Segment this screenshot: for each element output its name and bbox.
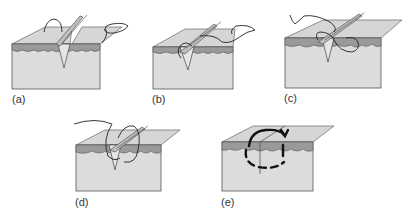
skin-block-side xyxy=(153,47,233,89)
dermis-layer-right xyxy=(66,44,100,52)
dermis-layer xyxy=(222,142,313,151)
panel-c-illustration xyxy=(285,13,402,88)
panel-b-illustration xyxy=(153,22,255,89)
dermis-layer-left xyxy=(12,44,62,52)
suture-diagram xyxy=(0,0,420,222)
panel-label-b: (b) xyxy=(152,94,165,105)
panel-label-a: (a) xyxy=(12,94,25,105)
panel-label-d: (d) xyxy=(75,197,88,208)
panel-label-e: (e) xyxy=(221,197,234,208)
panel-label-c: (c) xyxy=(284,93,297,104)
panel-e-illustration xyxy=(222,126,334,191)
skin-top-right-flap xyxy=(72,27,122,44)
panel-a-illustration xyxy=(12,15,128,89)
panel-d-illustration xyxy=(74,121,180,192)
skin-top-face xyxy=(222,126,334,142)
